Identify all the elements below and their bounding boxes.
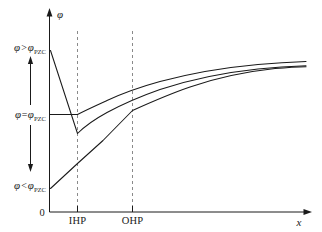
y-axis-arrowhead [47,8,53,17]
x-axis-label: x [296,216,302,228]
at-pzc-subscript: PZC [34,115,47,122]
above-pzc-phi-symbol: φ [14,41,20,53]
below-pzc-arrowhead [28,164,33,172]
x-tick-label-ihp: IHP [69,215,87,226]
below-pzc-relation-symbol: < [21,180,27,191]
below-pzc-subscript: PZC [34,186,47,193]
figure-canvas: φ x 0 IHP OHP φ>φPZC φ=φPZC φ<φPZC [0,0,322,232]
region-label-at-pzc: φ=φPZC [15,108,47,122]
x-tick-label-ohp: OHP [122,215,144,226]
curve-phi-below-pzc [51,67,307,189]
below-pzc-phi-symbol: φ [14,179,20,191]
above-pzc-arrowhead [28,56,33,64]
curve-phi-above-pzc [51,51,307,134]
above-pzc-relation-symbol: > [21,42,27,53]
at-pzc-relation-symbol: = [22,109,28,120]
at-pzc-phi-symbol: φ [15,108,21,120]
x-axis-arrowhead [304,209,313,215]
region-label-above-pzc: φ>φPZC [14,41,47,55]
origin-label: 0 [39,207,44,218]
potential-profile-figure: φ x 0 IHP OHP φ>φPZC φ=φPZC φ<φPZC [0,0,322,232]
y-axis-label: φ [57,8,63,20]
above-pzc-subscript: PZC [34,48,47,55]
region-label-below-pzc: φ<φPZC [14,179,47,193]
